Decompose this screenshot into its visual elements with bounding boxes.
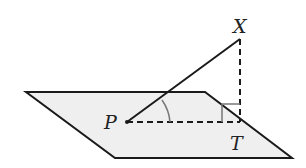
label-T: T bbox=[230, 132, 244, 154]
point-P bbox=[125, 120, 129, 124]
plane bbox=[26, 92, 292, 158]
label-P: P bbox=[103, 111, 118, 133]
line-plane-angle-diagram: P X T bbox=[0, 0, 306, 168]
label-X: X bbox=[231, 15, 248, 37]
